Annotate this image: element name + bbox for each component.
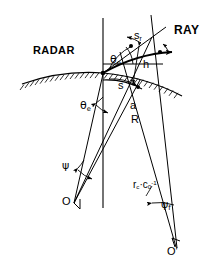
radar-geometry-figure: RADAR RAY sr θe h s a R θe ψ ψf rc·c0-1 … xyxy=(0,0,212,265)
slant-range-label-R: R xyxy=(131,114,139,125)
surface-point-marker xyxy=(136,85,140,89)
theta-e-central-base: θ xyxy=(80,99,87,112)
theta-e-central-subscript: e xyxy=(87,105,91,113)
psi-label: ψ xyxy=(62,160,69,171)
psi-f-label: ψf xyxy=(161,199,171,211)
curvature-radius-line-a xyxy=(151,15,177,248)
ray-label: RAY xyxy=(174,24,199,36)
refraction-radius-expression: rc·c0-1 xyxy=(133,180,157,191)
theta-e-top-label: θe xyxy=(110,54,121,66)
origin-label-O: O xyxy=(62,196,71,207)
ray-tip-angle-arc xyxy=(163,44,168,51)
theta-e-top-subscript: e xyxy=(117,59,121,67)
ray-target-marker xyxy=(158,50,162,54)
theta-e-central-angle-arc xyxy=(96,105,108,113)
radar-point-marker xyxy=(101,71,106,76)
diagram-canvas xyxy=(0,0,212,265)
radar-label: RADAR xyxy=(33,45,75,56)
hatched-ground-icon xyxy=(20,73,178,99)
c0-superscript: -1 xyxy=(151,179,157,186)
radius-to-radar-line xyxy=(74,74,103,203)
sr-subscript: r xyxy=(140,35,142,42)
origin-prime-label: O' xyxy=(167,246,178,257)
psi-f-subscript: f xyxy=(168,204,170,212)
arc-length-sr-label: sr xyxy=(134,30,142,42)
earth-radius-label-a: a xyxy=(130,100,136,111)
theta-e-top-base: θ xyxy=(110,53,117,66)
arc-point-marker xyxy=(129,44,133,48)
height-label-h: h xyxy=(143,59,149,70)
theta-e-central-label: θe xyxy=(80,100,91,112)
ground-arc-label-s: s xyxy=(118,80,124,91)
